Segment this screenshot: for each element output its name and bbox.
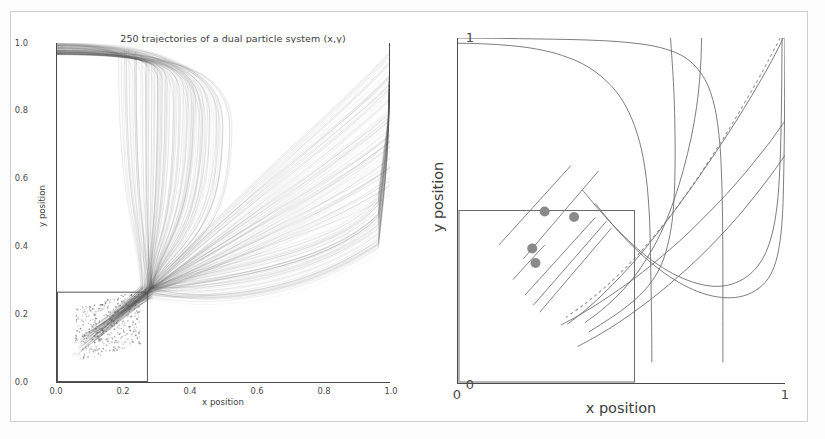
figure-canvas: 250 trajectories of a dual particle syst… bbox=[0, 0, 825, 439]
left-ytick-1: 0.2 bbox=[0, 309, 28, 319]
left-xtick-0: 0.0 bbox=[41, 386, 71, 396]
right-ytick-1: 1 bbox=[448, 30, 474, 45]
left-panel: 250 trajectories of a dual particle syst… bbox=[10, 11, 410, 422]
right-trajectory-plot bbox=[458, 38, 785, 383]
trajectory-traj-i bbox=[595, 38, 785, 298]
trajectory-segment-3 bbox=[525, 217, 595, 295]
trajectory-traj-a bbox=[458, 43, 652, 362]
left-xtick-4: 0.8 bbox=[309, 386, 339, 396]
trajectory-traj-j bbox=[582, 38, 782, 286]
right-axes-area bbox=[457, 38, 785, 384]
left-xtick-1: 0.2 bbox=[108, 386, 138, 396]
seed-marker-1 bbox=[569, 212, 579, 222]
trajectory-traj-f bbox=[567, 38, 783, 324]
left-ytick-2: 0.4 bbox=[0, 241, 28, 251]
left-ytick-3: 0.6 bbox=[0, 173, 28, 183]
trajectory-traj-c bbox=[589, 38, 675, 332]
seed-markers bbox=[527, 207, 579, 268]
left-xtick-2: 0.4 bbox=[175, 386, 205, 396]
representative-trajectories bbox=[458, 38, 785, 362]
left-trajectory-plot bbox=[57, 43, 390, 382]
trajectory-segment-4 bbox=[533, 221, 607, 306]
trajectory-segment-0 bbox=[499, 166, 571, 245]
left-ytick-5: 1.0 bbox=[0, 38, 28, 48]
right-panel: 0 1 0 1 x position y position bbox=[410, 11, 808, 422]
seed-marker-2 bbox=[527, 243, 537, 253]
right-inset-zoom-rect bbox=[459, 211, 634, 383]
left-xtick-5: 1.0 bbox=[376, 386, 406, 396]
left-x-axis-label: x position bbox=[56, 397, 390, 407]
left-axes-area bbox=[56, 43, 390, 383]
seed-marker-3 bbox=[531, 258, 541, 268]
trajectory-bundle bbox=[57, 43, 390, 360]
left-y-axis-label: y position bbox=[37, 166, 47, 246]
right-y-axis-label: y position bbox=[430, 137, 446, 257]
left-ytick-4: 0.8 bbox=[0, 105, 28, 115]
left-xtick-3: 0.6 bbox=[242, 386, 272, 396]
trajectory-traj-g bbox=[561, 121, 785, 325]
trajectory-traj-h bbox=[578, 155, 785, 346]
trajectory-traj-d bbox=[585, 38, 702, 323]
right-x-axis-label: x position bbox=[457, 400, 785, 416]
seed-marker-0 bbox=[540, 207, 550, 217]
left-ytick-0: 0.0 bbox=[0, 377, 28, 387]
trajectory-segment-5 bbox=[540, 228, 612, 313]
